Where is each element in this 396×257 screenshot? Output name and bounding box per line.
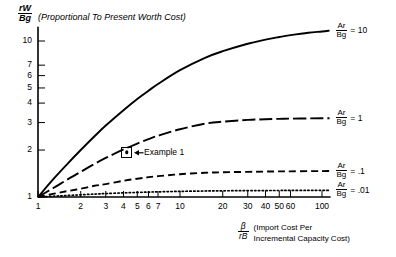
chart-figure: rW Bg (Proportional To Present Worth Cos…	[0, 0, 396, 257]
curve-label-value-1: = 10	[350, 25, 367, 35]
curve-label-value-2: = 1	[350, 113, 362, 123]
data-curves	[38, 31, 330, 197]
x-axis-title-note-line2: Incremental Capacity Cost)	[254, 233, 350, 244]
y-tick-label: 6	[8, 70, 32, 80]
x-tick-label: 1	[24, 201, 52, 211]
curve-label-value-3: = .1	[350, 166, 364, 176]
curve-label-4: ArBg= .01	[336, 181, 370, 198]
example-annotation-label: Example 1	[144, 147, 184, 157]
curve-label-2: ArBg= 1	[336, 109, 363, 126]
x-tick-label: 2	[67, 201, 95, 211]
curve-label-value-4: = .01	[350, 185, 369, 195]
curve-label-denominator-4: Bg	[336, 190, 348, 198]
y-tick-label: 5	[8, 82, 32, 92]
example-annotation: Example 1	[121, 147, 184, 158]
curve-label-denominator-2: Bg	[336, 118, 348, 126]
curve-label-3: ArBg= .1	[336, 162, 365, 179]
x-tick-label: 100	[308, 201, 336, 211]
curve-label-denominator-1: Bg	[336, 31, 348, 39]
x-axis-title-denominator: rB	[238, 232, 249, 241]
x-axis-title-note-line1: (Import Cost Per	[254, 222, 350, 233]
axes	[38, 27, 331, 197]
y-tick-label: 7	[8, 59, 32, 69]
y-tick-label: 2	[8, 144, 32, 154]
curve-4	[38, 190, 330, 197]
curve-label-fraction-4: ArBg	[336, 181, 348, 198]
x-tick-label: 10	[166, 201, 194, 211]
curve-label-1: ArBg= 10	[336, 22, 368, 39]
curve-label-fraction-1: ArBg	[336, 22, 348, 39]
curve-label-denominator-3: Bg	[336, 171, 348, 179]
y-tick-label: 10	[8, 35, 32, 45]
example-marker-icon	[121, 147, 132, 158]
y-tick-label: 3	[8, 117, 32, 127]
y-tick-label: 4	[8, 97, 32, 107]
curve-1	[38, 31, 330, 197]
x-axis-title: β rB (Import Cost Per Incremental Capaci…	[238, 222, 350, 244]
curve-label-fraction-3: ArBg	[336, 162, 348, 179]
x-tick-label: 20	[209, 201, 237, 211]
x-tick-label: 60	[276, 201, 304, 211]
x-axis-title-note: (Import Cost Per Incremental Capacity Co…	[254, 222, 350, 244]
x-axis-title-fraction: β rB	[238, 222, 249, 240]
curve-3	[38, 171, 330, 197]
curve-label-fraction-2: ArBg	[336, 109, 348, 126]
y-tick-label: 1	[8, 191, 32, 201]
